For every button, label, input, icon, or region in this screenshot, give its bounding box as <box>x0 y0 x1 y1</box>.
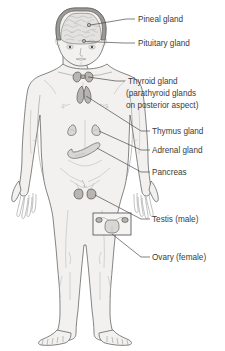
pituitary-gland <box>82 39 85 42</box>
left-pupil <box>69 46 71 48</box>
label-thymus-gland: Thymus gland <box>152 127 204 136</box>
label-pituitary-gland: Pituitary gland <box>138 39 190 48</box>
right-ovary <box>122 218 128 223</box>
label-adrenal-gland: Adrenal gland <box>152 146 203 155</box>
left-testis <box>74 189 83 199</box>
label-parathyroid-line1: (parathyroid glands <box>126 89 196 98</box>
right-pupil <box>91 46 93 48</box>
right-testis <box>87 189 96 199</box>
label-ovary-female: Ovary (female) <box>152 253 206 262</box>
label-thyroid-gland: Thyroid gland <box>128 77 178 86</box>
pineal-gland <box>87 23 90 26</box>
label-testis-male: Testis (male) <box>152 215 199 224</box>
label-parathyroid-line2: on posterior aspect) <box>126 101 199 110</box>
left-ovary <box>96 218 102 223</box>
label-pineal-gland: Pineal gland <box>138 15 184 24</box>
ovary-inset <box>93 213 131 235</box>
endocrine-system-diagram: Pineal gland Pituitary gland Thyroid gla… <box>0 0 225 351</box>
label-pancreas: Pancreas <box>152 168 187 177</box>
diagram-canvas: Pineal gland Pituitary gland Thyroid gla… <box>0 0 225 351</box>
